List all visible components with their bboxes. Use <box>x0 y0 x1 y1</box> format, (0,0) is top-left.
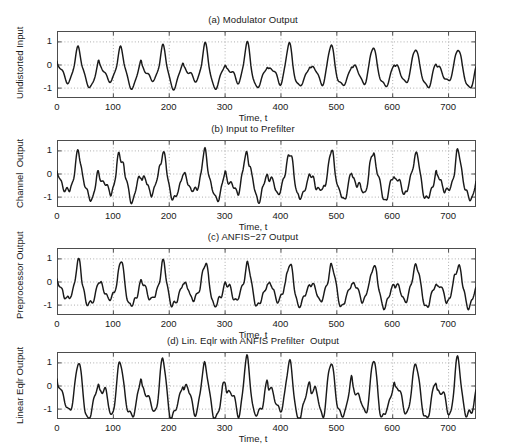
panel-a-xtick-300: 300 <box>208 101 242 112</box>
panel-b-xtick-500: 500 <box>319 210 353 221</box>
panel-b-xtick-300: 300 <box>208 210 242 221</box>
panel-b-xtick-0: 0 <box>40 210 74 221</box>
figure-multi-panel-time-series: (a) Modulator OutputUndistorted InputTim… <box>0 0 506 448</box>
panel-d-xtick-200: 200 <box>152 422 186 433</box>
panel-d-xtick-100: 100 <box>96 422 130 433</box>
panel-a-ytick-0: 0 <box>30 59 52 70</box>
panel-d-ytick-1: 1 <box>30 356 52 367</box>
panel-a-title: (a) Modulator Output <box>0 14 506 25</box>
panel-a-xtick-100: 100 <box>96 101 130 112</box>
panel-d-title: (d) Lin. Eqlr with ANFIS Prefilter Outpu… <box>0 335 506 346</box>
panel-a-xlabel: Time, t <box>0 112 506 123</box>
panel-d-xtick-300: 300 <box>208 422 242 433</box>
panel-d-ytick--1: -1 <box>30 403 52 414</box>
panel-c-title: (c) ANFIS−27 Output <box>0 231 506 242</box>
panel-d-xtick-500: 500 <box>319 422 353 433</box>
panel-b-xtick-100: 100 <box>96 210 130 221</box>
panel-d-xlabel: Time, t <box>0 433 506 444</box>
panel-b-xtick-600: 600 <box>375 210 409 221</box>
panel-a-ytick--1: -1 <box>30 82 52 93</box>
panel-d-xtick-600: 600 <box>375 422 409 433</box>
panel-b-xtick-200: 200 <box>152 210 186 221</box>
panel-c-ytick-1: 1 <box>30 252 52 263</box>
panel-b-title: (b) Input to Prefilter <box>0 123 506 134</box>
panel-d-xtick-700: 700 <box>431 422 465 433</box>
panel-c-xtick-400: 400 <box>263 318 297 329</box>
panel-d-axes <box>57 352 476 419</box>
panel-a-ytick-1: 1 <box>30 35 52 46</box>
panel-b-ytick-0: 0 <box>30 168 52 179</box>
panel-c-ylabel: Preprocessor Output <box>14 231 25 319</box>
panel-c-xtick-600: 600 <box>375 318 409 329</box>
panel-c-xtick-200: 200 <box>152 318 186 329</box>
panel-b-ylabel: Channel Output <box>14 139 25 208</box>
panel-a-axes <box>57 31 476 98</box>
panel-c-xtick-0: 0 <box>40 318 74 329</box>
panel-b-axes <box>57 140 476 207</box>
panel-c-axes <box>57 248 476 315</box>
panel-b-xtick-400: 400 <box>263 210 297 221</box>
panel-d-xtick-400: 400 <box>263 422 297 433</box>
panel-a-xtick-200: 200 <box>152 101 186 112</box>
panel-c-xtick-500: 500 <box>319 318 353 329</box>
panel-a-xtick-700: 700 <box>431 101 465 112</box>
panel-a-ylabel: Undistorted Input <box>14 27 25 99</box>
panel-d-ytick-0: 0 <box>30 380 52 391</box>
panel-a-xtick-600: 600 <box>375 101 409 112</box>
panel-c-xtick-700: 700 <box>431 318 465 329</box>
panel-d-xtick-0: 0 <box>40 422 74 433</box>
panel-b-ytick--1: -1 <box>30 191 52 202</box>
panel-b-ytick-1: 1 <box>30 144 52 155</box>
panel-c-ytick--1: -1 <box>30 299 52 310</box>
panel-d-ylabel: Linear Eqlr Output <box>14 347 25 424</box>
panel-c-xtick-100: 100 <box>96 318 130 329</box>
panel-c-xtick-300: 300 <box>208 318 242 329</box>
panel-a-xtick-500: 500 <box>319 101 353 112</box>
panel-a-xtick-0: 0 <box>40 101 74 112</box>
panel-b-xtick-700: 700 <box>431 210 465 221</box>
panel-c-ytick-0: 0 <box>30 276 52 287</box>
panel-a-xtick-400: 400 <box>263 101 297 112</box>
